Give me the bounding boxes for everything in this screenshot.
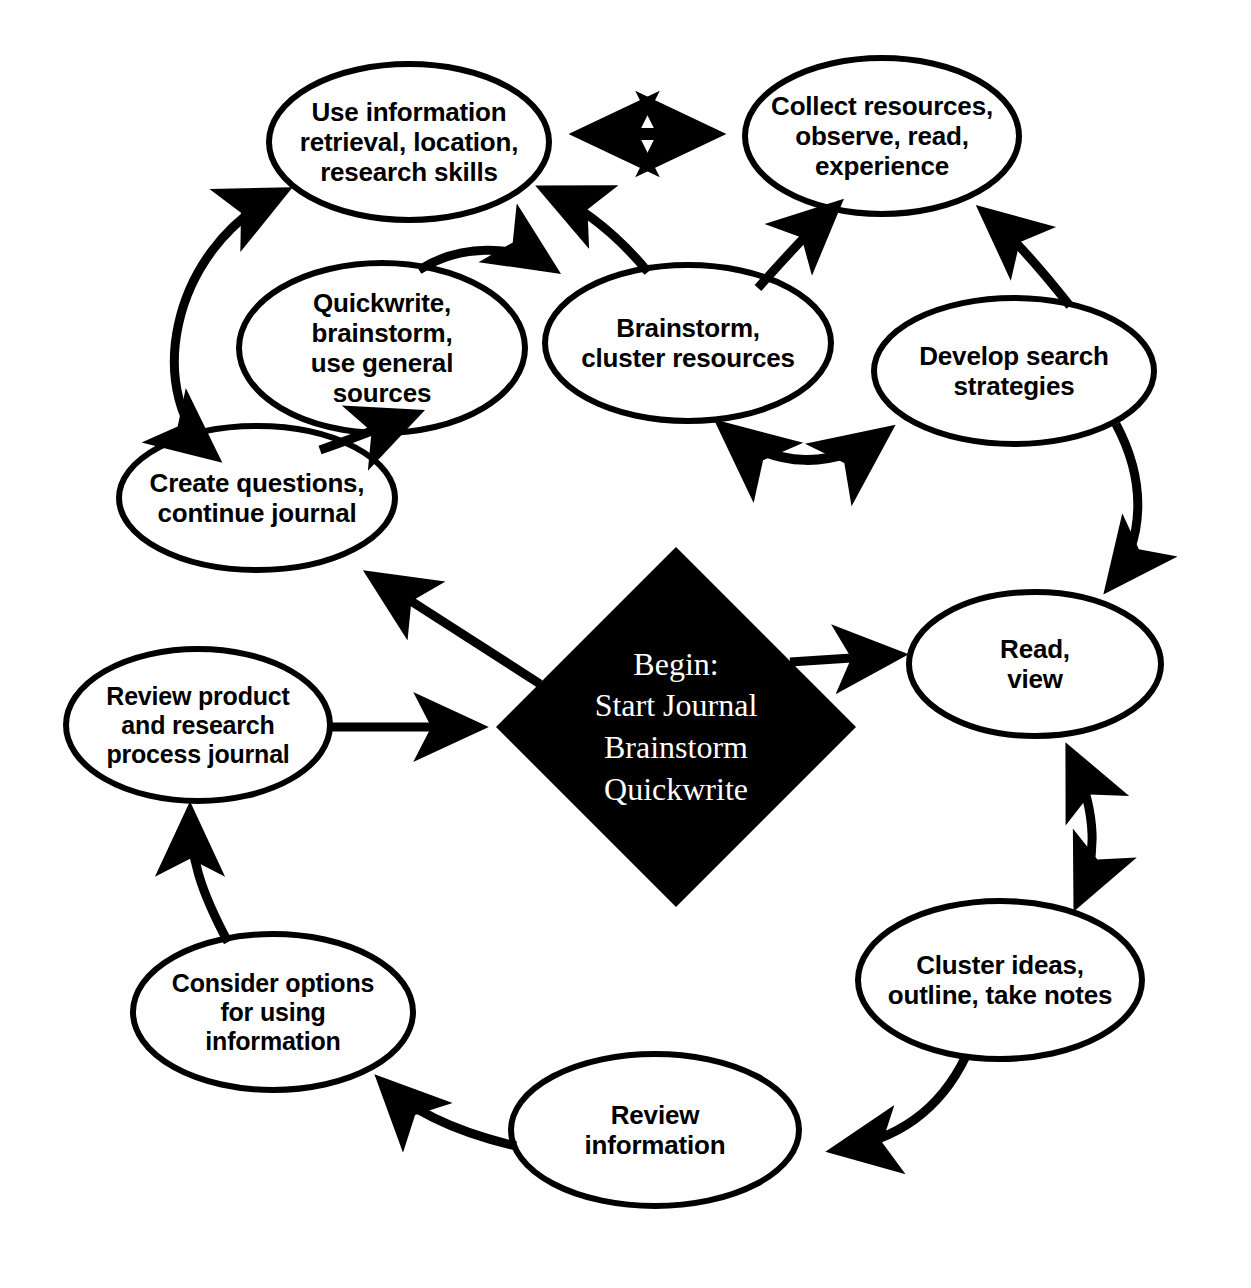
research-cycle-diagram: Use information retrieval, location, res… <box>0 0 1251 1288</box>
edge-consider-options-review-product[interactable] <box>190 812 228 942</box>
node-shape-quickwrite[interactable] <box>239 263 525 433</box>
center-diamond-shape[interactable] <box>496 547 856 907</box>
node-shape-develop-search[interactable] <box>874 298 1154 444</box>
edge-cluster-ideas-review-information[interactable] <box>836 1056 966 1150</box>
edge-review-information-consider-options[interactable] <box>382 1082 516 1146</box>
edge-center-create-questions[interactable] <box>372 576 540 684</box>
edge-read-view-cluster-ideas[interactable] <box>1070 752 1092 902</box>
node-shape-consider-options[interactable] <box>133 934 413 1090</box>
node-shape-collect-resources[interactable] <box>745 58 1019 214</box>
node-shape-cluster-ideas[interactable] <box>858 901 1142 1059</box>
edge-center-read-view[interactable] <box>790 655 898 662</box>
node-shape-use-information[interactable] <box>269 64 549 220</box>
edge-develop-search-read-view[interactable] <box>1110 424 1138 586</box>
edge-brainstorm-cluster-develop-search[interactable] <box>723 427 886 460</box>
edge-brainstorm-cluster-collect-resources[interactable] <box>758 206 836 288</box>
edge-brainstorm-cluster-use-information[interactable] <box>545 190 648 272</box>
edge-develop-search-collect-resources[interactable] <box>984 212 1070 306</box>
node-shape-create-questions[interactable] <box>119 426 395 570</box>
node-shape-review-information[interactable] <box>511 1054 799 1206</box>
node-shape-brainstorm-cluster[interactable] <box>545 265 831 421</box>
node-shape-read-view[interactable] <box>909 592 1161 736</box>
diagram-canvas <box>0 0 1251 1288</box>
node-shape-review-product[interactable] <box>66 649 330 801</box>
